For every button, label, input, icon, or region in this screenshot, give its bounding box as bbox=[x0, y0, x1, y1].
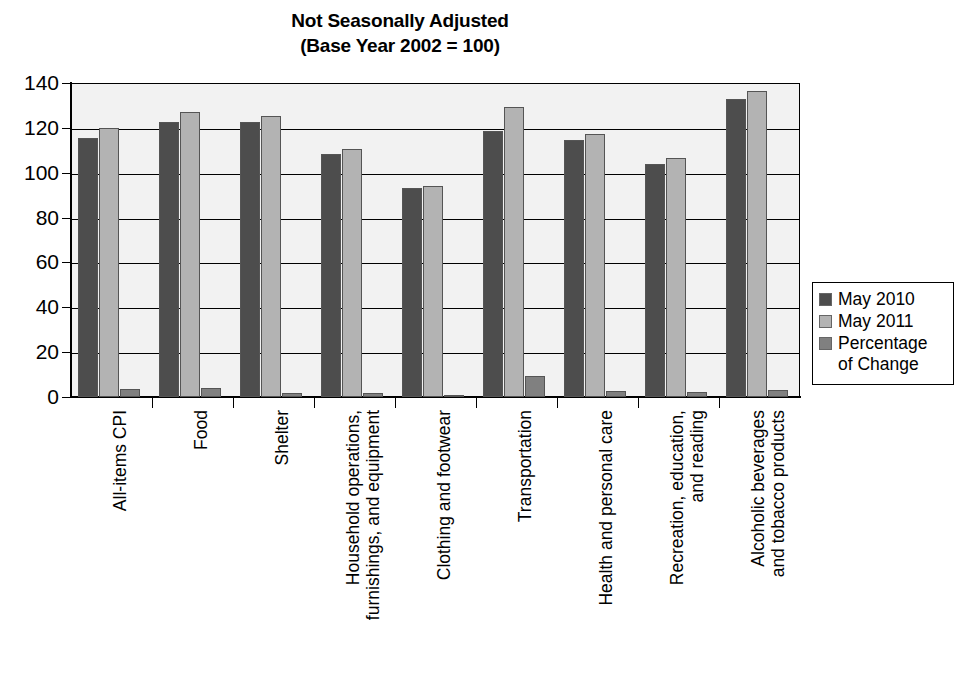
bar bbox=[282, 393, 302, 397]
bar bbox=[201, 388, 221, 397]
y-axis-tick-label: 140 bbox=[3, 72, 59, 93]
y-axis-tick-label: 120 bbox=[3, 117, 59, 138]
y-axis-tick bbox=[62, 218, 71, 219]
y-axis-tick-label: 20 bbox=[3, 341, 59, 362]
bar bbox=[423, 186, 443, 397]
bar bbox=[606, 391, 626, 397]
bar bbox=[363, 393, 383, 397]
bar bbox=[159, 122, 179, 397]
y-axis-tick-label: 100 bbox=[3, 162, 59, 183]
y-axis-tick-label: 80 bbox=[3, 207, 59, 228]
y-axis-tick bbox=[62, 352, 71, 353]
chart-title: Not Seasonally Adjusted (Base Year 2002 … bbox=[0, 8, 800, 58]
y-axis-tick bbox=[62, 83, 71, 84]
y-axis-tick-label: 0 bbox=[3, 386, 59, 407]
bar bbox=[564, 140, 584, 397]
bar bbox=[120, 389, 140, 397]
y-axis-tick-label: 40 bbox=[3, 296, 59, 317]
category-label-line: Alcoholic beverages bbox=[748, 410, 768, 660]
bar bbox=[402, 188, 422, 397]
x-axis-tick bbox=[557, 398, 558, 408]
bar bbox=[444, 395, 464, 397]
legend-label-percentage-of-change: Percentage of Change bbox=[838, 333, 928, 375]
bar bbox=[261, 116, 281, 397]
chart-title-line-1: Not Seasonally Adjusted bbox=[291, 10, 508, 31]
bar bbox=[504, 107, 524, 397]
category-label-line: Household operations, bbox=[343, 410, 363, 660]
bar bbox=[240, 122, 260, 397]
y-axis-tick bbox=[62, 397, 71, 398]
category-label-line: Clothing and footwear bbox=[434, 410, 454, 660]
y-axis-tick-label: 60 bbox=[3, 251, 59, 272]
category-label-line: furnishings, and equipment bbox=[363, 410, 383, 660]
x-axis-category-label: Food bbox=[191, 410, 211, 660]
legend-label-may-2011: May 2011 bbox=[838, 311, 914, 332]
y-axis-tick-label-wrap: 80 bbox=[0, 207, 59, 228]
legend: May 2010 May 2011 Percentage of Change bbox=[812, 282, 954, 385]
x-axis-category-label: Household operations,furnishings, and eq… bbox=[343, 410, 383, 660]
y-axis-tick bbox=[62, 307, 71, 308]
bar bbox=[180, 112, 200, 397]
x-axis-category-label: Recreation, education,and reading bbox=[667, 410, 707, 660]
y-axis-tick-label-wrap: 20 bbox=[0, 341, 59, 362]
x-axis-tick bbox=[314, 398, 315, 408]
y-axis-tick bbox=[62, 173, 71, 174]
legend-swatch-may-2011 bbox=[819, 315, 832, 328]
x-axis-category-label: Shelter bbox=[272, 410, 292, 660]
category-label-line: Shelter bbox=[272, 410, 292, 660]
x-axis-category-label: Clothing and footwear bbox=[434, 410, 454, 660]
bar bbox=[342, 149, 362, 397]
category-label-line: Health and personal care bbox=[596, 410, 616, 660]
category-label-line: Food bbox=[191, 410, 211, 660]
legend-label-may-2010: May 2010 bbox=[838, 289, 915, 310]
bar-chart: Not Seasonally Adjusted (Base Year 2002 … bbox=[0, 0, 967, 688]
y-axis-tick-label-wrap: 140 bbox=[0, 72, 59, 93]
y-axis-tick-label-wrap: 40 bbox=[0, 296, 59, 317]
x-axis-tick bbox=[152, 398, 153, 408]
y-axis-tick-label-wrap: 120 bbox=[0, 117, 59, 138]
bar bbox=[726, 99, 746, 397]
category-label-line: and tobacco products bbox=[768, 410, 788, 660]
bar bbox=[99, 128, 119, 397]
bar bbox=[666, 158, 686, 397]
x-axis-category-label: All-items CPI bbox=[110, 410, 130, 660]
y-axis-tick-label-wrap: 0 bbox=[0, 386, 59, 407]
x-axis-tick bbox=[233, 398, 234, 408]
bar bbox=[321, 154, 341, 397]
y-axis-line bbox=[70, 82, 72, 398]
x-axis-category-label: Transportation bbox=[515, 410, 535, 660]
y-axis-tick bbox=[62, 128, 71, 129]
bar bbox=[525, 376, 545, 397]
bar bbox=[687, 392, 707, 397]
x-axis-tick bbox=[719, 398, 720, 408]
category-label-line: and reading bbox=[687, 410, 707, 660]
x-axis-tick bbox=[395, 398, 396, 408]
bar bbox=[747, 91, 767, 397]
bar bbox=[768, 390, 788, 397]
legend-swatch-may-2010 bbox=[819, 293, 832, 306]
y-axis-tick-label-wrap: 60 bbox=[0, 251, 59, 272]
category-label-line: Recreation, education, bbox=[667, 410, 687, 660]
chart-title-line-2: (Base Year 2002 = 100) bbox=[0, 33, 800, 58]
bar bbox=[78, 138, 98, 397]
legend-item[interactable]: May 2010 bbox=[819, 289, 947, 310]
y-axis-tick-label-wrap: 100 bbox=[0, 162, 59, 183]
bar bbox=[585, 134, 605, 397]
category-label-line: Transportation bbox=[515, 410, 535, 660]
x-axis-tick bbox=[638, 398, 639, 408]
category-label-line: All-items CPI bbox=[110, 410, 130, 660]
legend-item[interactable]: May 2011 bbox=[819, 311, 947, 332]
bar bbox=[483, 131, 503, 397]
x-axis-category-label: Health and personal care bbox=[596, 410, 616, 660]
x-axis-category-label: Alcoholic beveragesand tobacco products bbox=[748, 410, 788, 660]
x-axis-tick bbox=[476, 398, 477, 408]
legend-item[interactable]: Percentage of Change bbox=[819, 333, 947, 375]
legend-swatch-percentage-of-change bbox=[819, 337, 832, 350]
bar bbox=[645, 164, 665, 397]
y-axis-tick bbox=[62, 262, 71, 263]
